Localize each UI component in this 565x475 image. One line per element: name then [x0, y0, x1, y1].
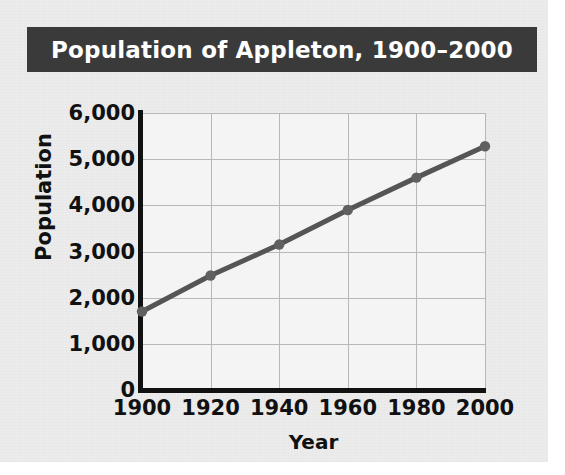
data-series-line — [142, 113, 485, 390]
chart-title: Population of Appleton, 1900–2000 — [51, 37, 513, 63]
y-tick-label: 6,000 — [55, 101, 135, 125]
chart-figure: Population of Appleton, 1900–2000 01,000… — [0, 0, 548, 462]
x-tick-label: 2000 — [440, 396, 530, 420]
chart-title-bar: Population of Appleton, 1900–2000 — [27, 27, 537, 72]
gridline-vertical — [485, 113, 486, 390]
data-point-marker — [274, 239, 284, 249]
y-axis-title: Population — [32, 122, 56, 272]
data-point-marker — [480, 141, 490, 151]
y-tick-label: 2,000 — [55, 286, 135, 310]
x-axis-title: Year — [142, 430, 485, 454]
y-tick-label: 4,000 — [55, 193, 135, 217]
y-tick-label: 5,000 — [55, 147, 135, 171]
data-point-marker — [343, 205, 353, 215]
data-point-marker — [411, 172, 421, 182]
data-point-marker — [137, 306, 147, 316]
y-tick-label: 3,000 — [55, 240, 135, 264]
population-line — [142, 146, 485, 311]
y-tick-label: 1,000 — [55, 332, 135, 356]
data-point-marker — [205, 270, 215, 280]
